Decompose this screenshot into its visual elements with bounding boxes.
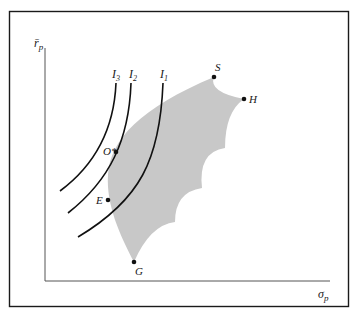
curve-label-i2: I2 — [128, 67, 137, 83]
point-e-marker — [106, 198, 111, 203]
y-axis-label: r̄p — [34, 36, 44, 52]
point-o-label: O* — [103, 145, 117, 157]
point-h-marker — [242, 97, 247, 102]
point-h-label: H — [248, 93, 258, 105]
point-e-label: E — [95, 194, 103, 206]
figure-canvas: r̄p σp I3 I2 I1 S H O* E G — [0, 0, 357, 320]
point-g-label: G — [135, 265, 143, 277]
point-g-marker — [132, 260, 137, 265]
x-axis-label: σp — [318, 287, 329, 303]
point-s-label: S — [215, 61, 221, 73]
curve-label-i3: I3 — [111, 67, 120, 83]
curve-label-i1: I1 — [159, 67, 168, 83]
feasible-set-region — [108, 77, 244, 262]
point-s-marker — [212, 75, 217, 80]
indifference-curve-i3 — [60, 83, 116, 191]
